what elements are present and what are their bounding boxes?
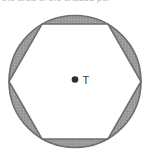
center-point-dot xyxy=(72,76,79,83)
center-point-label: T xyxy=(83,74,90,86)
figure-canvas: T xyxy=(0,0,151,158)
geometry-figure: the area of the shaded por xyxy=(0,0,151,158)
